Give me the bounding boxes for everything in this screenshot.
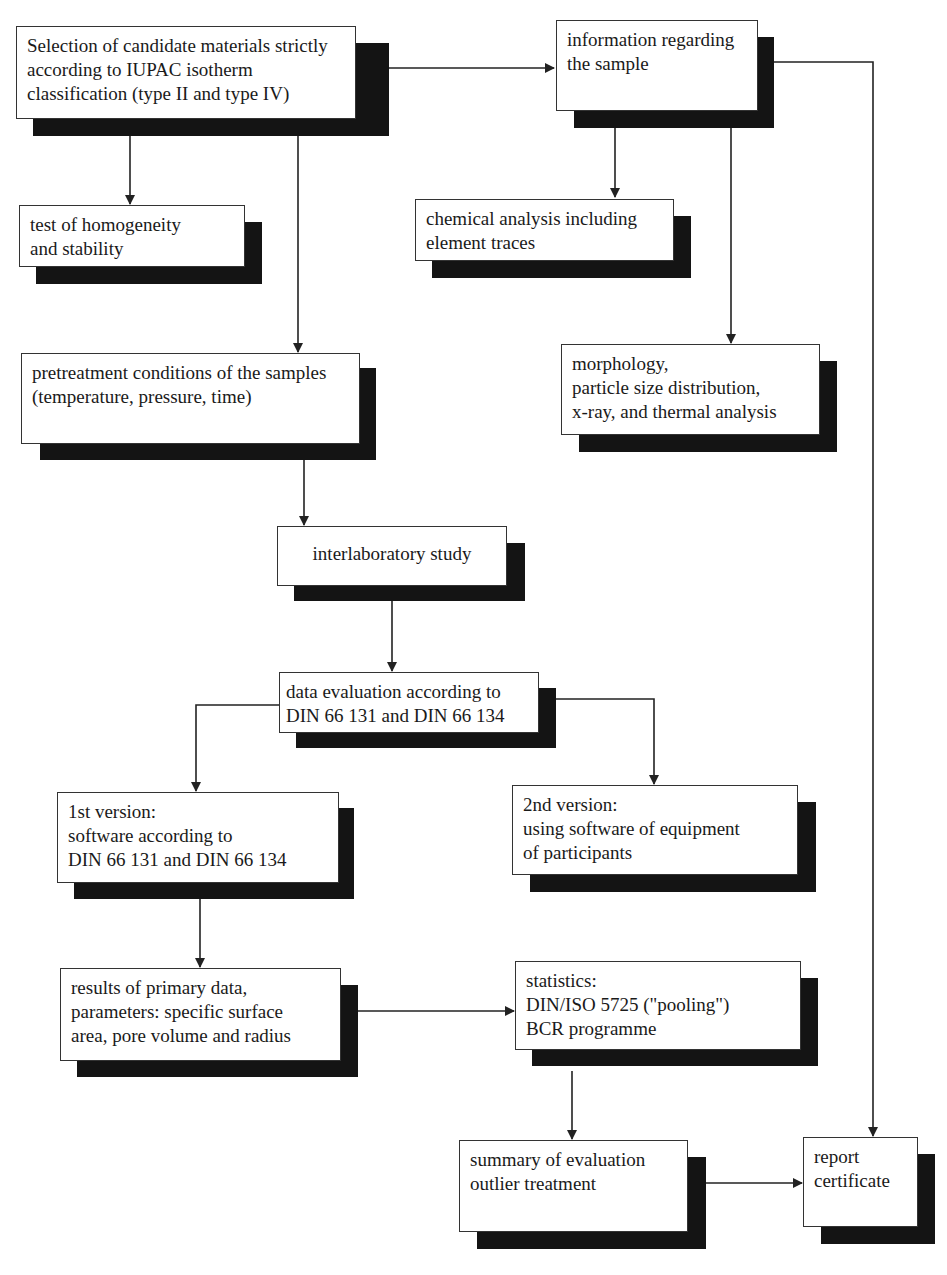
node-results-label: results of primary data, parameters: spe… (60, 968, 341, 1061)
node-interlab: interlaboratory study (277, 526, 507, 586)
node-report-label: report certificate (803, 1137, 918, 1227)
node-selection: Selection of candidate materials strictl… (16, 26, 356, 119)
node-version2-label: 2nd version: using software of equipment… (512, 785, 798, 875)
node-homogeneity: test of homogeneity and stability (19, 205, 245, 267)
node-chemical: chemical analysis including element trac… (415, 199, 674, 261)
node-summary: summary of evaluation outlier treatment (459, 1140, 688, 1232)
node-statistics-label: statistics: DIN/ISO 5725 ("pooling") BCR… (515, 961, 801, 1050)
node-evaluation: data evaluation according to DIN 66 131 … (279, 672, 539, 733)
edge-evaluation-to-version2 (556, 699, 654, 784)
node-pretreatment-label: pretreatment conditions of the samples (… (21, 353, 360, 444)
node-pretreatment: pretreatment conditions of the samples (… (21, 353, 360, 444)
node-version1-label: 1st version: software according to DIN 6… (57, 792, 339, 883)
node-results: results of primary data, parameters: spe… (60, 968, 341, 1061)
node-selection-label: Selection of candidate materials strictl… (16, 26, 356, 119)
connector-layer (0, 0, 947, 1275)
node-morphology-label: morphology, particle size distribution, … (561, 344, 820, 435)
node-evaluation-label: data evaluation according to DIN 66 131 … (279, 672, 539, 733)
node-info: information regarding the sample (556, 20, 758, 111)
node-interlab-label: interlaboratory study (277, 526, 507, 586)
node-chemical-label: chemical analysis including element trac… (415, 199, 674, 261)
node-summary-label: summary of evaluation outlier treatment (459, 1140, 688, 1232)
node-morphology: morphology, particle size distribution, … (561, 344, 820, 435)
edge-evaluation-to-version1 (196, 705, 279, 791)
node-version1: 1st version: software according to DIN 6… (57, 792, 339, 883)
node-version2: 2nd version: using software of equipment… (512, 785, 798, 875)
node-homogeneity-label: test of homogeneity and stability (19, 205, 245, 267)
node-report: report certificate (803, 1137, 918, 1227)
node-info-label: information regarding the sample (556, 20, 758, 111)
node-statistics: statistics: DIN/ISO 5725 ("pooling") BCR… (515, 961, 801, 1050)
